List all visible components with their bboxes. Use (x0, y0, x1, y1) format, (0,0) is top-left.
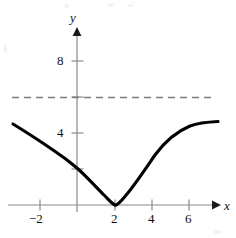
y-tick-label-8: 8 (57, 54, 64, 67)
y-tick-label-4: 4 (57, 126, 64, 139)
x-tick-label-minus2: −2 (29, 212, 43, 225)
x-axis-arrow-icon (212, 201, 221, 210)
curve-path (13, 122, 218, 206)
x-tick-label-2: 2 (111, 212, 118, 225)
y-axis-label: y (70, 11, 76, 24)
x-tick-label-4: 4 (148, 212, 155, 225)
plot-canvas (0, 0, 236, 238)
x-axis-label: x (224, 199, 230, 212)
y-axis-arrow-icon (73, 27, 82, 36)
x-tick-label-6: 6 (185, 212, 192, 225)
graph-figure: y x 8 4 −2 2 4 6 (0, 0, 236, 238)
